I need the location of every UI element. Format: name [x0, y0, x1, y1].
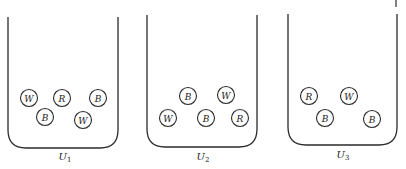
ball-letter: B	[321, 114, 329, 124]
ball-letter: R	[305, 92, 313, 102]
ball-b: B	[198, 110, 215, 127]
ball-b: B	[317, 110, 334, 127]
ball-w: W	[160, 110, 177, 127]
ball-w: W	[218, 87, 235, 104]
ball-w: W	[341, 88, 358, 105]
ball-r: R	[54, 90, 71, 107]
ball-r: R	[232, 110, 249, 127]
urn-label: U1	[59, 151, 72, 164]
urns: WRBBWU1BWWBRU2RWBBU3	[8, 14, 397, 164]
ball-w: W	[75, 112, 92, 129]
ball-b: B	[37, 109, 54, 126]
urn-3: RWBBU3	[288, 14, 397, 162]
ball-b: B	[180, 88, 197, 105]
ball-w: W	[21, 90, 38, 107]
ball-letter: W	[221, 91, 231, 101]
urn-label: U2	[197, 151, 210, 164]
ball-letter: R	[58, 94, 66, 104]
ball-letter: B	[368, 115, 376, 125]
ball-b: B	[90, 90, 107, 107]
ball-letter: B	[94, 94, 102, 104]
urn-label: U3	[337, 149, 350, 162]
urn-1: WRBBWU1	[8, 17, 118, 164]
ball-letter: W	[78, 116, 88, 126]
ball-letter: W	[344, 92, 354, 102]
ball-letter: B	[184, 92, 192, 102]
urn-outline	[288, 14, 397, 145]
ball-r: R	[301, 88, 318, 105]
urn-outline	[147, 15, 257, 147]
ball-letter: W	[163, 114, 173, 124]
ball-b: B	[364, 111, 381, 128]
urn-2: BWWBRU2	[147, 15, 257, 164]
ball-letter: W	[24, 94, 34, 104]
urn-diagram: WRBBWU1BWWBRU2RWBBU3	[0, 0, 406, 169]
ball-letter: R	[236, 114, 244, 124]
ball-letter: B	[202, 114, 210, 124]
ball-letter: B	[41, 113, 49, 123]
urn-outline	[8, 17, 118, 148]
